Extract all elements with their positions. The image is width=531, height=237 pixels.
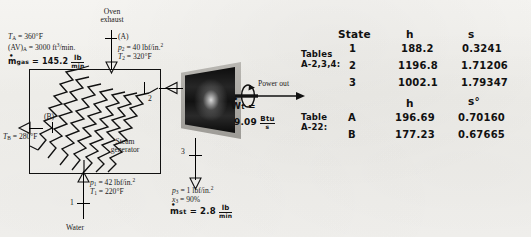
table-lower-row-h: 177.23 (395, 129, 435, 140)
state-2-marker: 2 (148, 95, 152, 103)
annotation-port-a: (A) (118, 33, 129, 41)
stream-2-tick (144, 82, 145, 94)
table-upper-row-s: 1.71206 (461, 60, 508, 71)
table-upper-source: Tables A-2,3,4: (301, 50, 340, 70)
table-upper-header-state: State (338, 28, 371, 40)
stream-3-line (195, 138, 196, 180)
stream-b-line (29, 128, 43, 129)
stream-3-tick (189, 155, 202, 156)
annotation-T2: T2 = 320°F (118, 53, 152, 62)
water-label: Water (66, 224, 84, 232)
table-upper-row-h: 1002.1 (398, 77, 438, 88)
annotation-T1: T1 = 220°F (90, 188, 124, 197)
stream-b-tick (52, 122, 53, 133)
table-upper-row-h: 1196.8 (398, 60, 438, 71)
table-lower-source: Table A-22: (301, 113, 327, 133)
table-lower-row-state: A (348, 112, 356, 123)
table-upper-row-state: 3 (349, 77, 356, 88)
table-upper-row-s: 0.3241 (462, 43, 502, 54)
turbine-rotor-face (185, 67, 235, 133)
table-upper-header-h: h (406, 28, 414, 40)
annotation-m-gas-handwritten: • mgas = 145.2 lb min (8, 55, 84, 69)
annotation-Wt-value: 9.09 Btu s (234, 116, 275, 130)
table-lower-row-h: 196.69 (395, 112, 435, 123)
table-upper-row-s: 1.79347 (461, 77, 508, 88)
stream-a-line (111, 30, 112, 70)
table-lower-row-state: B (348, 129, 356, 140)
heat-exchanger-coil (38, 69, 149, 172)
table-upper-row-state: 2 (349, 60, 356, 71)
table-upper-header-s: s (468, 28, 474, 40)
power-out-arrowhead (296, 92, 305, 100)
table-lower-header-s: s° (468, 95, 480, 107)
annotation-TA: TA = 360°F (8, 33, 43, 42)
oven-exhaust-label: Oven exhaust (82, 8, 142, 24)
stream-1-line (83, 172, 84, 219)
stream-2-line (159, 88, 183, 89)
table-upper-row-state: 1 (349, 43, 356, 54)
annotation-TB: TB = 280°F (3, 133, 38, 142)
steam-generator-label: Steam generator (96, 138, 154, 154)
annotation-port-b: (B) (44, 113, 54, 121)
annotation-AVA: (AV)A = 3000 ft3/min. (8, 43, 75, 53)
table-upper-row-h: 188.2 (401, 43, 434, 54)
annotation-m-st-handwritten: • mst = 2.8 lb min (170, 205, 232, 219)
stream-1-tick (77, 203, 90, 204)
state-1-marker: 1 (70, 199, 74, 207)
annotation-Wt-handwritten: • Wt = (231, 102, 256, 112)
table-lower-row-s: 0.70160 (458, 112, 505, 123)
state-3-marker: 3 (181, 148, 185, 156)
annotation-x3: x3 = 90% (172, 196, 200, 205)
table-lower-row-s: 0.67665 (458, 129, 505, 140)
power-out-label: Power out (258, 80, 289, 88)
table-lower-header-h: h (406, 97, 414, 109)
stream-a-tick (105, 38, 117, 39)
figure-page: Oven exhaust (0, 0, 531, 237)
